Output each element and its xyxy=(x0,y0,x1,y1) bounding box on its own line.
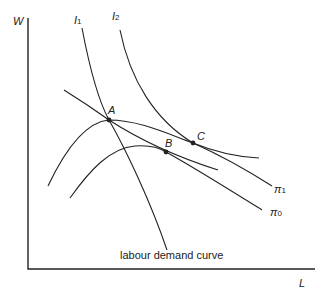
curve-i1 xyxy=(82,28,167,250)
w-axis-label: W xyxy=(13,15,23,27)
curve-pi1 xyxy=(48,120,272,186)
pi1-label: π1 xyxy=(274,183,286,195)
point-c-label: C xyxy=(197,130,205,142)
i2-label: I2 xyxy=(112,10,120,22)
point-b xyxy=(164,150,169,155)
l-axis-label: L xyxy=(299,277,305,289)
point-b-label: B xyxy=(165,137,172,149)
point-c xyxy=(191,141,196,146)
labour-demand-label: labour demand curve xyxy=(120,249,223,261)
point-a xyxy=(107,118,112,123)
point-a-label: A xyxy=(108,104,115,116)
pi0-label: π0 xyxy=(270,206,282,218)
i1-label: I1 xyxy=(74,14,82,26)
